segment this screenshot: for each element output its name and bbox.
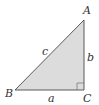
triangle-shape [15,20,84,90]
side-label-c: c [42,45,48,58]
triangle-diagram: A B C a b c [0,0,99,105]
side-label-b: b [87,51,94,64]
vertex-label-b: B [4,87,13,100]
side-label-a: a [48,92,55,105]
vertex-label-c: C [83,92,92,105]
vertex-label-a: A [82,4,91,17]
